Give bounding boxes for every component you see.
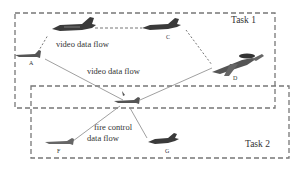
flow-label-fire-control-2: data flow <box>87 134 119 143</box>
node-label-c: C <box>166 34 170 40</box>
flow-label-video-2: video data flow <box>87 67 140 76</box>
flow-label-video-1: video data flow <box>56 40 109 49</box>
node-label-g: G <box>165 148 169 154</box>
link-e-g <box>130 108 147 138</box>
link-e-d <box>140 68 212 100</box>
task1-label: Task 1 <box>231 16 256 26</box>
node-label-f: F <box>57 148 60 154</box>
link-c-d <box>186 30 212 65</box>
awacs-aircraft-icon <box>212 54 264 77</box>
flow-label-fire-control-1: fire control <box>94 123 132 132</box>
node-label-d: D <box>233 75 237 81</box>
small-aircraft-icon <box>45 138 74 145</box>
link-a-b <box>38 35 48 52</box>
node-label-a: A <box>29 60 33 66</box>
task2-label: Task 2 <box>245 140 270 150</box>
fighter-jet-icon <box>142 18 181 30</box>
small-aircraft-icon <box>15 50 41 58</box>
fighter-jet-icon <box>148 133 179 144</box>
fighter-jet-icon <box>52 17 96 31</box>
